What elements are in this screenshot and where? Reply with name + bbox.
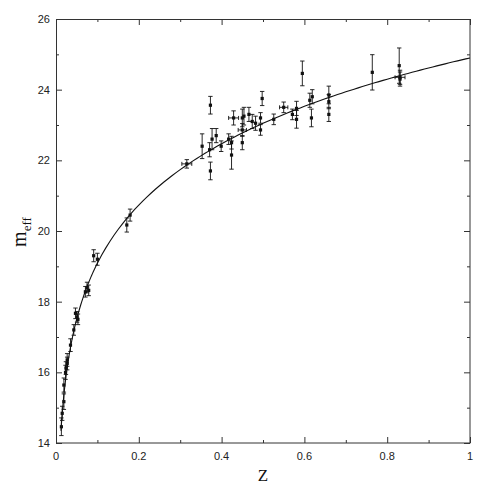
y-tick-labels: 14161820222426	[38, 13, 50, 449]
svg-text:meff: meff	[8, 216, 34, 246]
fit-curve	[61, 58, 470, 431]
data-point	[240, 136, 244, 150]
data-point	[260, 91, 264, 105]
data-point	[95, 253, 99, 265]
x-tick-label: 0	[53, 450, 59, 462]
x-axis-title: Z	[258, 466, 268, 485]
data-point	[300, 61, 304, 86]
data-point	[327, 107, 331, 121]
data-point	[128, 209, 132, 221]
data-points	[59, 48, 405, 436]
data-point	[229, 111, 239, 125]
data-point	[200, 134, 204, 159]
x-tick-label: 0.6	[297, 450, 312, 462]
x-tick-label: 0.8	[380, 450, 395, 462]
data-point	[258, 125, 262, 136]
y-axis-title: meff	[8, 216, 34, 246]
axis-ticks	[56, 19, 471, 444]
data-point	[294, 111, 298, 129]
data-point	[219, 141, 223, 152]
x-tick-labels: 00.20.40.60.81	[53, 450, 473, 462]
hubble-diagram-chart: 00.20.40.60.81 14161820222426 Z meff	[0, 0, 481, 491]
y-axis-title-sub: eff	[19, 216, 34, 231]
y-tick-label: 14	[38, 437, 50, 449]
y-axis-title-main: m	[8, 231, 30, 247]
plot-frame	[57, 20, 471, 444]
x-tick-label: 0.4	[214, 450, 229, 462]
data-point	[210, 129, 214, 150]
data-point	[370, 55, 374, 90]
data-point	[280, 102, 288, 113]
data-point	[214, 129, 218, 143]
data-point	[272, 114, 276, 125]
data-point	[208, 96, 212, 114]
x-tick-label: 1	[467, 450, 473, 462]
y-tick-label: 20	[38, 225, 50, 237]
y-tick-label: 22	[38, 154, 50, 166]
y-tick-label: 18	[38, 296, 50, 308]
y-tick-label: 26	[38, 13, 50, 25]
y-tick-label: 16	[38, 366, 50, 378]
data-point	[208, 162, 212, 180]
y-tick-label: 24	[38, 84, 50, 96]
data-point	[258, 113, 262, 124]
x-tick-label: 0.2	[131, 450, 146, 462]
data-point	[309, 109, 313, 127]
data-point	[91, 250, 95, 262]
